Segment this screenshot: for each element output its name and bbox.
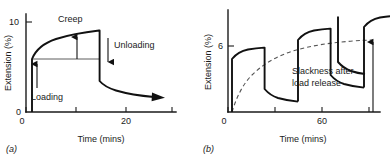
panel-a-loading-label: Loading [31, 92, 63, 102]
panel-a-ytick-label-0: 0 [16, 107, 21, 117]
figure-container: 0 20 10 0 Time (mins) Extension (%) Load… [0, 0, 390, 163]
panel-a-xtick-label-0: 0 [19, 116, 24, 126]
panel-a-ytick-label-10: 10 [9, 17, 19, 27]
panel-b-xtick-label-60: 60 [317, 116, 327, 126]
panel-a: 0 20 10 0 Time (mins) Extension (%) Load… [0, 0, 195, 163]
panel-b-cycle-1 [232, 48, 298, 112]
panel-a-label: (a) [6, 144, 17, 154]
panel-b-cycle-3 [364, 16, 390, 87]
panel-b-label: (b) [203, 144, 214, 154]
panel-a-ylabel: Extension (%) [3, 35, 13, 91]
panel-b-plot: 0 60 6 Time (mins) Extension (%) Slackne… [195, 0, 390, 163]
panel-a-creep-label: Creep [58, 14, 83, 24]
panel-b-slackness-label-line2: load release [292, 78, 341, 88]
panel-b-xlabel: Time (mins) [279, 134, 326, 144]
panel-b-xtick-label-0: 0 [221, 116, 226, 126]
panel-b-slackness-envelope [232, 40, 373, 112]
panel-b-ytick-label-6: 6 [218, 41, 223, 51]
panel-b-slackness-label-line1: Slackness after [292, 66, 354, 76]
panel-a-xlabel: Time (mins) [77, 134, 124, 144]
panel-b: 0 60 6 Time (mins) Extension (%) Slackne… [195, 0, 390, 163]
panel-a-xtick-label-20: 20 [121, 116, 131, 126]
panel-a-plot: 0 20 10 0 Time (mins) Extension (%) Load… [0, 0, 195, 163]
panel-b-ylabel: Extension (%) [203, 34, 213, 90]
panel-a-unloading-label: Unloading [114, 40, 155, 50]
panel-b-axes [228, 10, 380, 112]
panel-a-recovery-arrowhead [152, 93, 165, 102]
